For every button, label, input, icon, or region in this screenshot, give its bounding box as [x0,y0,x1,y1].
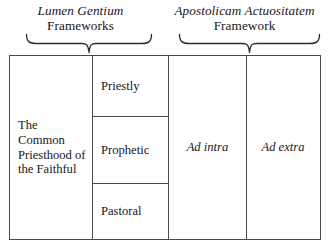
heading-document-title-lumen-gentium: Lumen Gentium [9,3,152,18]
curly-brace-icon-left [25,33,153,54]
matrix-table: The Common Priesthood of the Faithful Pr… [9,55,321,240]
matrix-column-common-priesthood: The Common Priesthood of the Faithful [10,56,93,239]
matrix-cell-common-priesthood: The Common Priesthood of the Faithful [10,56,92,239]
figure-diagram: Lumen Gentium Frameworks Apostolicam Act… [0,0,331,248]
heading-label-framework: Framework [168,18,321,33]
matrix-cell-pastoral: Pastoral [93,184,168,239]
matrix-column-ad-intra: Ad intra [169,56,247,239]
matrix-cell-ad-intra: Ad intra [169,56,246,239]
matrix-column-munera: Priestly Prophetic Pastoral [93,56,169,239]
curly-brace-icon-right [178,33,321,54]
matrix-cell-ad-extra: Ad extra [247,56,319,239]
matrix-cell-prophetic: Prophetic [93,117,168,184]
matrix-column-ad-extra: Ad extra [247,56,319,239]
heading-document-title-apostolicam-actuositatem: Apostolicam Actuositatem [168,3,321,18]
heading-group-lumen-gentium: Lumen Gentium Frameworks [9,3,152,33]
heading-label-frameworks: Frameworks [9,18,152,33]
headings-row: Lumen Gentium Frameworks Apostolicam Act… [0,0,331,34]
heading-group-apostolicam-actuositatem: Apostolicam Actuositatem Framework [168,3,321,33]
matrix-cell-priestly: Priestly [93,56,168,117]
